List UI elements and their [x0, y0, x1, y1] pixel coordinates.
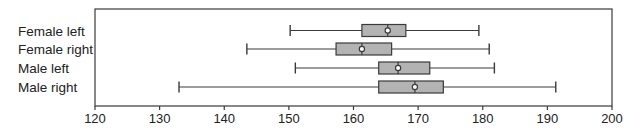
x-axis: 120130140150160170180190200 [84, 106, 623, 126]
x-tick-label: 180 [472, 111, 494, 126]
box-plot-chart: Female leftFemale rightMale leftMale rig… [0, 0, 635, 132]
x-tick-label: 140 [213, 111, 235, 126]
median-marker-icon [412, 84, 417, 89]
iqr-box [379, 62, 430, 74]
median-marker-icon [359, 46, 364, 51]
x-tick-label: 120 [84, 111, 106, 126]
x-tick-label: 200 [601, 111, 623, 126]
x-tick-label: 190 [537, 111, 559, 126]
category-label: Female right [18, 42, 93, 57]
iqr-box [362, 25, 406, 37]
box-row [290, 25, 479, 37]
box-row [295, 62, 494, 74]
median-marker-icon [385, 28, 390, 33]
category-labels: Female leftFemale rightMale leftMale rig… [18, 24, 93, 96]
x-tick-label: 130 [149, 111, 171, 126]
category-label: Male right [18, 80, 78, 95]
box-series [179, 25, 556, 94]
plot-frame [95, 9, 612, 106]
iqr-box [379, 81, 444, 93]
x-tick-label: 170 [407, 111, 429, 126]
x-tick-label: 160 [343, 111, 365, 126]
x-tick-label: 150 [278, 111, 300, 126]
category-label: Male left [18, 61, 69, 76]
median-marker-icon [395, 65, 400, 70]
box-row [179, 81, 556, 93]
box-row [247, 43, 489, 55]
category-label: Female left [18, 24, 85, 39]
